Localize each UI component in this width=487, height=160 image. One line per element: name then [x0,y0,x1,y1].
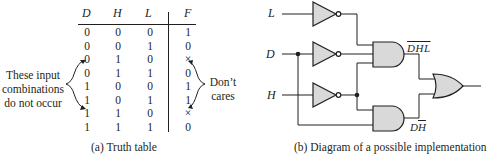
or-gate-icon [433,74,463,98]
junction-dot-d [296,52,301,57]
inverter-d-icon [313,42,341,66]
left-arrow-up [66,61,84,84]
inverter-h-icon [313,83,341,107]
left-arrow-down [66,84,84,108]
right-arrow-up [190,62,205,84]
junction-dot-h [355,93,360,98]
and-gate-lower-icon [373,106,404,131]
right-arrow-down [190,84,205,107]
inverter-l-icon [313,2,341,26]
and-gate-upper-icon [373,42,404,67]
